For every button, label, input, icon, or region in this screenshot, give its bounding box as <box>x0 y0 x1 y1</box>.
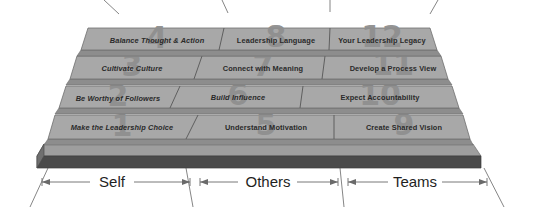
tile-label-1: Make the Leadership Choice <box>71 123 173 132</box>
axis-segment-teams: Teams <box>348 173 487 190</box>
axis-segment-others: Others <box>200 173 338 190</box>
perspective-guide-lines <box>104 0 438 14</box>
tile-label-9: Create Shared Vision <box>366 123 443 132</box>
tile-label-11: Develop a Process View <box>350 64 437 73</box>
tile-label-7: Connect with Meaning <box>223 64 304 73</box>
tile-label-4: Balance Thought & Action <box>110 36 205 45</box>
axis-label-self: Self <box>99 173 126 190</box>
dimension-axis: Self Others Teams <box>42 173 487 190</box>
tile-label-8: Leadership Language <box>237 36 315 45</box>
leadership-framework-diagram: 1 Make the Leadership Choice 5 Understan… <box>0 0 533 210</box>
tile-label-12: Your Leadership Legacy <box>338 36 426 45</box>
axis-segment-self: Self <box>42 173 190 190</box>
tile-label-5: Understand Motivation <box>225 123 308 132</box>
tile-label-10: Expect Accountability <box>340 93 420 102</box>
axis-label-others: Others <box>245 173 290 190</box>
tile-row-top: 4 Balance Thought & Action 8 Leadership … <box>77 19 441 56</box>
tile-label-6: Build Influence <box>211 93 265 102</box>
tile-label-2: Be Worthy of Followers <box>76 94 161 103</box>
tile-label-3: Cultivate Culture <box>102 64 163 73</box>
base-slab <box>37 144 481 168</box>
axis-label-teams: Teams <box>393 173 437 190</box>
